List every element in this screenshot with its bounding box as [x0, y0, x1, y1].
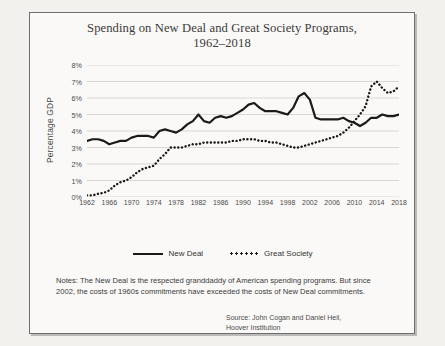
plot-canvas — [87, 65, 399, 197]
x-tick-label: 2002 — [302, 199, 318, 206]
legend-item-new-deal: New Deal — [133, 249, 203, 258]
dotted-line-icon — [229, 252, 259, 255]
y-tick-label: 3% — [56, 143, 82, 152]
chart-notes: Notes: The New Deal is the respected gra… — [56, 275, 386, 297]
x-tick-label: 1978 — [168, 199, 184, 206]
y-tick-label: 1% — [56, 176, 82, 185]
series-line-great-society — [87, 82, 399, 196]
x-tick-label: 1974 — [146, 199, 162, 206]
chart-source: Source: John Cogan and Daniel Heil, Hoov… — [226, 313, 396, 332]
chart-title-line-2: 1962–2018 — [30, 36, 414, 51]
x-tick-label: 1990 — [235, 199, 251, 206]
x-tick-label: 1982 — [191, 199, 207, 206]
series-svg — [87, 65, 399, 197]
y-axis-ticks: 8%7%6%5%4%3%2%1%0% — [54, 65, 82, 197]
figure-frame: Spending on New Deal and Great Society P… — [29, 12, 415, 334]
chart-title-line-1: Spending on New Deal and Great Society P… — [30, 21, 414, 36]
source-line-2: Hoover Institution — [226, 323, 396, 333]
x-tick-label: 1962 — [79, 199, 95, 206]
x-tick-label: 2006 — [324, 199, 340, 206]
x-axis-ticks: 1962196619701974197819821986199019941998… — [87, 199, 399, 213]
x-tick-label: 2014 — [369, 199, 385, 206]
y-tick-label: 4% — [56, 127, 82, 136]
chart-legend: New Deal Great Society — [30, 249, 416, 258]
y-tick-label: 7% — [56, 77, 82, 86]
x-tick-label: 2010 — [347, 199, 363, 206]
y-tick-label: 6% — [56, 94, 82, 103]
x-tick-label: 1998 — [280, 199, 296, 206]
legend-label-great-society: Great Society — [264, 249, 312, 258]
legend-label-new-deal: New Deal — [168, 249, 203, 258]
x-tick-label: 2018 — [391, 199, 407, 206]
y-tick-label: 0% — [56, 193, 82, 202]
source-line-1: Source: John Cogan and Daniel Heil, — [226, 313, 396, 323]
y-tick-label: 2% — [56, 160, 82, 169]
x-tick-label: 1986 — [213, 199, 229, 206]
x-tick-label: 1994 — [257, 199, 273, 206]
legend-item-great-society: Great Society — [229, 249, 312, 258]
series-line-new-deal — [87, 93, 399, 144]
solid-line-icon — [133, 253, 163, 255]
y-tick-label: 8% — [56, 61, 82, 70]
y-tick-label: 5% — [56, 110, 82, 119]
x-tick-label: 1970 — [124, 199, 140, 206]
x-tick-label: 1966 — [101, 199, 117, 206]
chart-title: Spending on New Deal and Great Society P… — [30, 21, 414, 51]
plot-area: Percentage GDP 8%7%6%5%4%3%2%1%0% 196219… — [30, 65, 416, 235]
